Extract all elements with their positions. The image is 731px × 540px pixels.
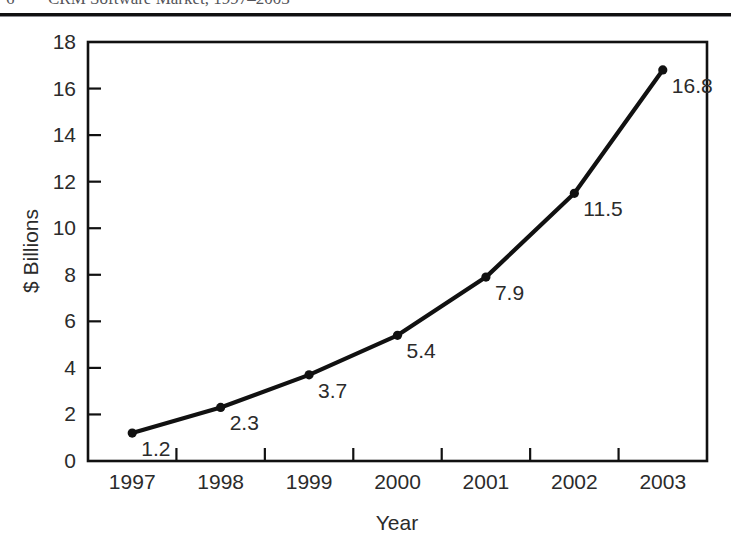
data-point xyxy=(570,189,579,198)
y-tick-label: 12 xyxy=(53,170,76,193)
x-tick-label: 2000 xyxy=(374,470,421,493)
y-tick-label: 0 xyxy=(64,449,76,472)
data-point xyxy=(393,331,402,340)
y-tick-label: 10 xyxy=(53,216,76,239)
x-tick-label: 1997 xyxy=(109,470,156,493)
y-tick-label: 6 xyxy=(64,309,76,332)
y-tick-label: 4 xyxy=(64,356,76,379)
data-point-label: 5.4 xyxy=(407,339,437,362)
data-point xyxy=(304,370,313,379)
y-axis-tick-labels: 024681012141618 xyxy=(53,30,77,472)
x-tick-label: 1999 xyxy=(286,470,333,493)
y-tick-label: 16 xyxy=(53,77,76,100)
y-tick-label: 2 xyxy=(64,402,76,425)
y-axis-title: $ Billions xyxy=(19,209,42,293)
plot-frame xyxy=(88,42,707,461)
plot-area xyxy=(88,42,707,461)
x-tick-label: 1998 xyxy=(197,470,244,493)
book-page: 6 CRM Software Market, 1997–2003 0246810… xyxy=(0,0,731,540)
y-tick-label: 8 xyxy=(64,263,76,286)
data-point xyxy=(481,273,490,282)
data-point-label: 11.5 xyxy=(583,197,622,220)
x-axis-tick-labels: 1997199819992000200120022003 xyxy=(109,470,686,493)
data-point-label: 1.2 xyxy=(141,437,170,460)
page-number: 6 xyxy=(6,0,15,9)
header-rule xyxy=(0,13,731,16)
data-point-label: 7.9 xyxy=(495,281,524,304)
x-tick-label: 2001 xyxy=(463,470,510,493)
running-head: 6 CRM Software Market, 1997–2003 xyxy=(0,0,731,11)
data-point-label: 16.8 xyxy=(672,74,713,97)
data-point xyxy=(216,403,225,412)
x-tick-label: 2003 xyxy=(639,470,686,493)
x-tick-label: 2002 xyxy=(551,470,598,493)
x-axis-title: Year xyxy=(376,511,418,534)
y-tick-label: 18 xyxy=(53,30,76,53)
running-title: CRM Software Market, 1997–2003 xyxy=(48,0,290,9)
data-point xyxy=(658,65,667,74)
y-tick-label: 14 xyxy=(53,123,77,146)
data-point-label: 2.3 xyxy=(230,411,259,434)
data-point xyxy=(128,428,137,437)
line-chart: 024681012141618 199719981999200020012002… xyxy=(0,18,731,540)
data-point-label: 3.7 xyxy=(318,379,347,402)
chart-svg: 024681012141618 199719981999200020012002… xyxy=(0,18,731,540)
